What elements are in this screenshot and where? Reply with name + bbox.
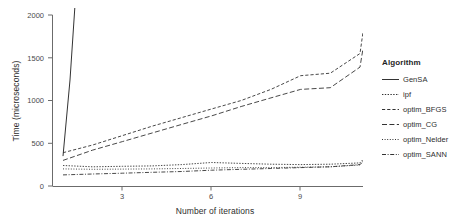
legend-item-optim-CG[interactable]: optim_CG: [382, 118, 458, 131]
solid-line-key: [382, 74, 399, 85]
x-tick-label-6: 6: [201, 192, 221, 201]
legend-item-optim-Nelder[interactable]: optim_Nelder: [382, 133, 458, 146]
long-dash-line-key: [382, 119, 399, 130]
legend-item-ipf[interactable]: ipf: [382, 88, 458, 101]
x-axis-title: Number of iterations: [140, 206, 290, 216]
series-line-GenSA: [63, 0, 76, 156]
legend-title: Algorithm: [382, 58, 458, 67]
series-line-optim-SANN: [63, 161, 363, 175]
y-axis-title: Time (microseconds): [11, 41, 21, 161]
legend: Algorithm GenSA ipf optim_BFGS optim_CG: [382, 58, 458, 163]
y-tick-label-0: 0: [10, 182, 44, 191]
legend-label-optim-Nelder: optim_Nelder: [403, 135, 448, 144]
series-line-optim-Nelder: [63, 161, 363, 169]
legend-item-optim-SANN[interactable]: optim_SANN: [382, 148, 458, 161]
dash-dot-line-key: [382, 149, 399, 160]
y-tick-marks: [48, 15, 53, 186]
legend-label-GenSA: GenSA: [403, 75, 427, 84]
legend-label-optim-SANN: optim_SANN: [403, 150, 447, 159]
line-chart: 0 500 1000 1500 2000 3 6 9 Time (microse…: [0, 0, 459, 224]
x-tick-marks: [122, 187, 300, 191]
legend-label-optim-CG: optim_CG: [403, 120, 437, 129]
x-tick-label-3: 3: [112, 192, 132, 201]
legend-label-optim-BFGS: optim_BFGS: [403, 105, 446, 114]
fine-dotted-line-key: [382, 89, 399, 100]
y-tick-label-2000: 2000: [10, 11, 44, 20]
series-line-optim-BFGS: [63, 32, 363, 153]
legend-label-ipf: ipf: [403, 90, 411, 99]
x-tick-label-9: 9: [290, 192, 310, 201]
dashed-line-key: [382, 104, 399, 115]
series-line-optim-CG: [63, 49, 363, 161]
legend-item-optim-BFGS[interactable]: optim_BFGS: [382, 103, 458, 116]
dotted-line-key: [382, 134, 399, 145]
series-line-ipf: [63, 160, 363, 167]
legend-item-GenSA[interactable]: GenSA: [382, 73, 458, 86]
